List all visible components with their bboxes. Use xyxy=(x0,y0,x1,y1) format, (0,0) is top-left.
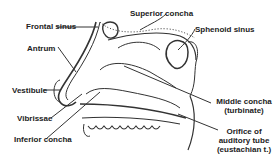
label-inferior-concha: Inferior concha xyxy=(14,135,72,144)
label-middle-concha: Middle concha (turbinate) xyxy=(210,97,278,115)
label-vibrissae: Vibrissae xyxy=(17,114,52,123)
sphenoid-sinus-shape xyxy=(166,41,188,69)
hard-palate xyxy=(80,104,186,118)
label-orifice-auditory-tube: Orifice of auditory tube (eustachian t.) xyxy=(210,127,278,154)
label-sphenoid-sinus: Sphenoid sinus xyxy=(195,25,255,34)
label-orifice-line2: auditory tube xyxy=(210,136,278,145)
label-vestibule: Vestibule xyxy=(12,86,47,95)
label-middle-concha-line1: Middle concha xyxy=(210,97,278,106)
label-middle-concha-line2: (turbinate) xyxy=(210,106,278,115)
label-orifice-line1: Orifice of xyxy=(210,127,278,136)
middle-concha-shape xyxy=(100,63,176,88)
label-frontal-sinus: Frontal sinus xyxy=(26,22,76,31)
label-antrum: Antrum xyxy=(27,44,55,53)
label-orifice-line3: (eustachian t.) xyxy=(210,145,278,154)
superior-concha-shape xyxy=(118,42,160,50)
teeth xyxy=(88,126,160,129)
nose-profile xyxy=(58,22,96,106)
label-superior-concha: Superior concha xyxy=(130,9,193,18)
